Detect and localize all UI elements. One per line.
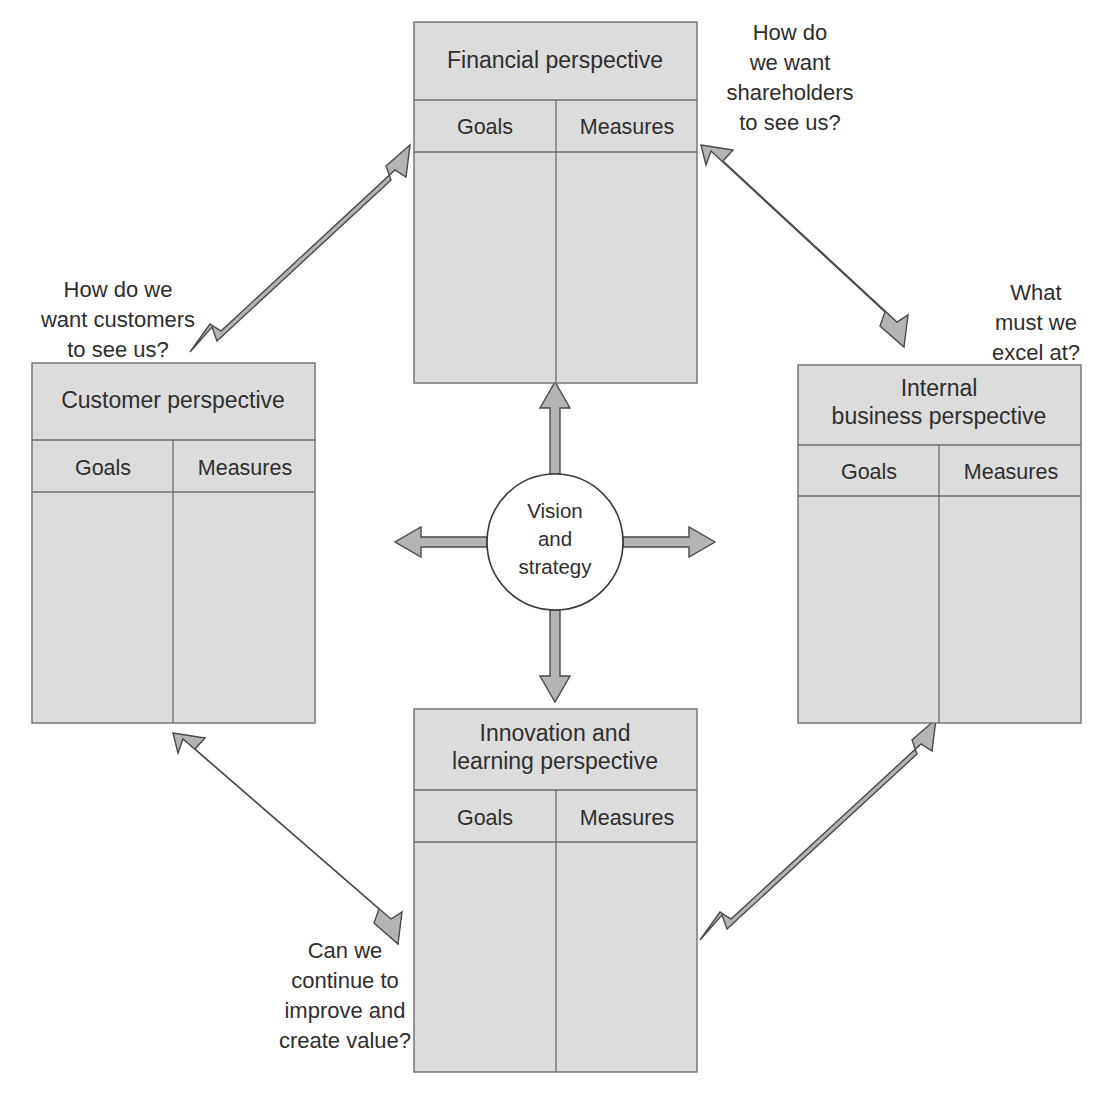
balanced-scorecard-diagram: Financial perspective Goals Measures Cus…	[0, 0, 1109, 1093]
arrow-customer-financial	[190, 145, 410, 352]
question-shareholders-line1: How do	[753, 20, 828, 45]
panel-title-financial: Financial perspective	[447, 47, 663, 73]
panel-customer[interactable]: Customer perspective Goals Measures	[32, 363, 315, 723]
arrow-center-to-financial	[540, 382, 570, 474]
panel-customer-goals-header: Goals	[75, 456, 131, 480]
arrow-internal-innovation	[700, 719, 936, 940]
arrow-center-to-internal	[623, 527, 715, 557]
question-improve-line1: Can we	[308, 938, 383, 963]
question-shareholders-line2: we want	[749, 50, 831, 75]
question-customers-line3: to see us?	[67, 337, 169, 362]
arrow-center-to-innovation	[540, 610, 570, 702]
panel-title-internal-line2: business perspective	[832, 403, 1047, 429]
question-shareholders: How do we want shareholders to see us?	[726, 20, 853, 135]
arrow-center-to-customer	[395, 527, 487, 557]
circle-label-line3: strategy	[519, 555, 593, 578]
circle-label-line2: and	[538, 527, 572, 550]
arrow-customer-innovation	[173, 733, 402, 944]
question-improve-line3: improve and	[284, 998, 405, 1023]
panel-innovation-goals-header: Goals	[457, 806, 513, 830]
question-excel-line1: What	[1010, 280, 1061, 305]
panel-financial-goals-header: Goals	[457, 115, 513, 139]
question-improve-line4: create value?	[279, 1028, 411, 1053]
panel-customer-measures-header: Measures	[198, 456, 292, 480]
panel-title-internal-line1: Internal	[901, 375, 978, 401]
panel-financial-measures-header: Measures	[580, 115, 674, 139]
question-shareholders-line3: shareholders	[726, 80, 853, 105]
panel-title-innovation-line1: Innovation and	[480, 720, 631, 746]
panel-innovation-measures-header: Measures	[580, 806, 674, 830]
vision-and-strategy-circle[interactable]: Vision and strategy	[487, 474, 623, 610]
question-customers-line2: want customers	[40, 307, 195, 332]
panel-internal-goals-header: Goals	[841, 460, 897, 484]
panel-title-innovation-line2: learning perspective	[452, 748, 658, 774]
question-shareholders-line4: to see us?	[739, 110, 841, 135]
arrow-financial-internal	[701, 145, 908, 347]
question-improve: Can we continue to improve and create va…	[279, 938, 411, 1053]
question-improve-line2: continue to	[291, 968, 399, 993]
panel-internal-measures-header: Measures	[964, 460, 1058, 484]
question-excel: What must we excel at?	[992, 280, 1080, 365]
circle-label-line1: Vision	[527, 499, 582, 522]
panel-internal-business[interactable]: Internal business perspective Goals Meas…	[798, 365, 1081, 723]
question-excel-line2: must we	[995, 310, 1077, 335]
panel-innovation-learning[interactable]: Innovation and learning perspective Goal…	[414, 709, 697, 1072]
question-customers: How do we want customers to see us?	[40, 277, 195, 362]
panel-financial[interactable]: Financial perspective Goals Measures	[414, 22, 697, 383]
diagram-canvas: Financial perspective Goals Measures Cus…	[0, 0, 1109, 1093]
question-excel-line3: excel at?	[992, 340, 1080, 365]
question-customers-line1: How do we	[64, 277, 173, 302]
panel-title-customer: Customer perspective	[61, 387, 285, 413]
